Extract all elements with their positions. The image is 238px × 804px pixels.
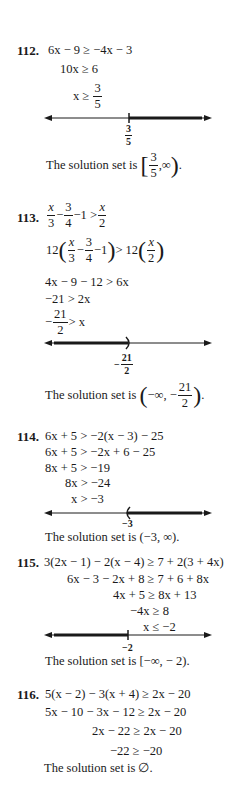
problem-number: 112. [17, 44, 39, 57]
solution-value: (−3, ∞). [139, 530, 179, 544]
left-arrow-icon [44, 632, 52, 638]
equation-step: 6x − 9 ≥ −4x − 3 [48, 44, 132, 57]
equation-step: 6x + 5 > −2x + 6 − 25 [45, 446, 155, 459]
equation-step: 10x ≥ 6 [60, 63, 98, 76]
number-line-label: −212 [114, 353, 134, 376]
equation-step: 6x − 3 − 2x + 8 ≥ 7 + 6 + 8x [67, 573, 209, 586]
solution-line: The solution set is [−∞, − 2). [45, 655, 190, 668]
equation-step: x > −3 [71, 493, 104, 506]
problem-number: 116. [17, 688, 39, 701]
equation-step: 4x − 9 − 12 > 6x [45, 276, 129, 289]
number-line-label: −2 [122, 643, 133, 653]
number-line [44, 629, 214, 643]
solution-line: The solution set is ∅. [44, 762, 153, 775]
number-line-label: −3 [122, 519, 133, 529]
left-arrow-icon [44, 510, 52, 516]
solution-value: ∅. [138, 761, 152, 775]
equation-step: −212> x [45, 308, 85, 336]
equation-step: 2x − 22 ≥ 2x − 20 [92, 725, 182, 738]
right-arrow-icon [204, 510, 212, 516]
equation-step: 12(x3−34−1)> 12(x2) [46, 236, 164, 264]
problem-number: 115. [17, 556, 39, 569]
equation-step: −21 > 2x [45, 293, 90, 306]
equation-step: 8x + 5 > −19 [45, 462, 110, 475]
solution-line: The solution set is (−∞, −212). [45, 381, 204, 409]
step-text: x ≥ [73, 89, 89, 103]
equation-step: x3−34−1 >x2 [46, 201, 107, 229]
fraction: 35 [93, 82, 101, 110]
right-arrow-icon [204, 115, 212, 121]
left-arrow-icon [44, 340, 52, 346]
solution-line: The solution set is (−3, ∞). [45, 531, 179, 544]
equation-step: −4x ≥ 8 [130, 605, 169, 618]
solution-line: The solution set is [35,∞). [46, 151, 182, 179]
equation-step: 3(2x − 1) − 2(x − 4) ≥ 7 + 2(3 + 4x) [44, 556, 224, 569]
equation-step: 5x − 10 − 3x − 12 ≥ 2x − 20 [45, 706, 186, 719]
equation-step: 8x > −24 [65, 477, 110, 490]
problem-number: 113. [17, 211, 39, 224]
right-arrow-icon [204, 632, 212, 638]
equation-step: −22 ≥ −20 [110, 745, 162, 758]
equation-step: 5(x − 2) − 3(x + 4) ≥ 2x − 20 [45, 688, 190, 701]
left-arrow-icon [44, 115, 52, 121]
equation-step: x ≥ 35 [73, 82, 103, 110]
problem-number: 114. [17, 430, 39, 443]
number-line-label: 35 [124, 124, 133, 147]
number-line [44, 337, 214, 351]
right-arrow-icon [204, 340, 212, 346]
equation-step: 6x + 5 > −2(x − 3) − 25 [45, 430, 164, 443]
equation-step: 4x + 5 ≥ 8x + 13 [113, 589, 196, 602]
solution-value: [−∞, − 2). [139, 654, 189, 668]
